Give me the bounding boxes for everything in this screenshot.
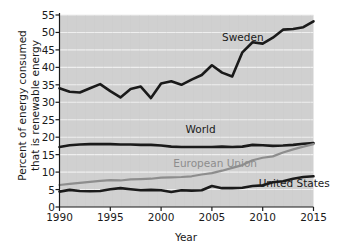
chart-figure: Percent of energy consumed that is renew… [0,0,340,252]
series-label-european-union: European Union [173,157,257,169]
series-label-sweden: Sweden [222,31,264,43]
plot-canvas [0,0,340,252]
series-label-world: World [185,123,215,135]
series-label-united-states: United States [259,177,330,189]
